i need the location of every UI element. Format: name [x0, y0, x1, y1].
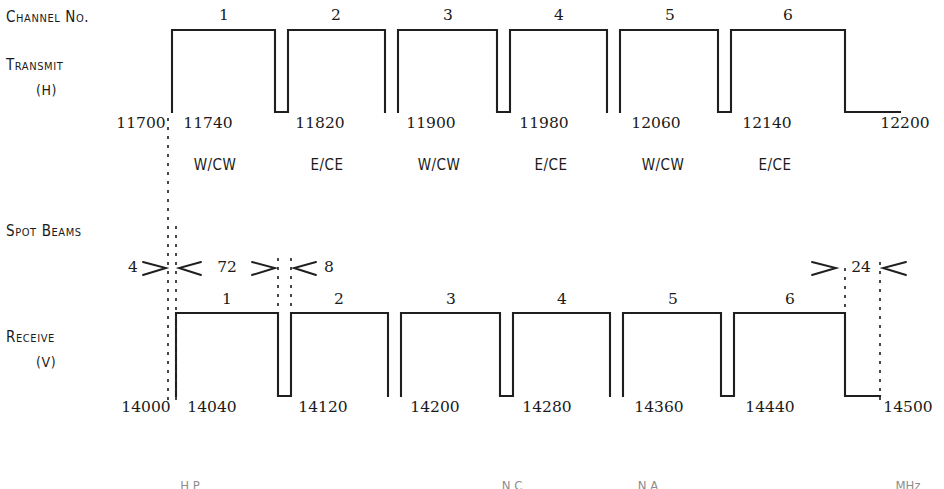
polarization-label-1: W/CW — [194, 156, 237, 174]
footnote-fragment-3: N A — [638, 478, 658, 489]
polarization-label-4: E/CE — [534, 156, 567, 174]
arrow-left-24 — [883, 262, 906, 275]
transmit-freq-12060: 12060 — [631, 114, 680, 132]
guard-band-value-24: 24 — [851, 258, 871, 276]
polarization-label-5: W/CW — [642, 156, 685, 174]
transmit-freq-11700: 11700 — [116, 114, 165, 132]
channel-no-row-label: Channel No. — [6, 8, 89, 26]
footnote-fragment-4: MHz — [895, 478, 920, 489]
arrow-right-72 — [252, 262, 275, 275]
transmit-channel-number-5: 5 — [665, 6, 675, 24]
arrow-right-24 — [812, 262, 836, 275]
receive-freq-14440: 14440 — [745, 398, 794, 416]
spot-beam-arrows — [143, 262, 906, 275]
receive-channel-number-3: 3 — [446, 290, 456, 308]
arrow-left-8 — [294, 262, 316, 275]
guard-band-value-72: 72 — [217, 258, 237, 276]
transmit-freq-11980: 11980 — [519, 114, 568, 132]
polarization-label-2: E/CE — [310, 156, 343, 174]
polarization-label-6: E/CE — [758, 156, 791, 174]
receive-freq-14040: 14040 — [187, 398, 236, 416]
transmit-channel-number-6: 6 — [783, 6, 793, 24]
transmit-row-label: Transmit — [6, 56, 63, 74]
receive-freq-14000: 14000 — [121, 398, 170, 416]
guard-band-value-8: 8 — [324, 258, 334, 276]
transmit-waveform — [172, 30, 900, 112]
transmit-freq-12140: 12140 — [742, 114, 791, 132]
arrow-right-4 — [143, 262, 166, 275]
receive-channel-number-5: 5 — [668, 290, 678, 308]
receive-freq-14200: 14200 — [410, 398, 459, 416]
transmit-row-sublabel: (H) — [36, 82, 57, 98]
receive-channel-number-1: 1 — [222, 290, 232, 308]
spot-beams-row-label: Spot Beams — [6, 222, 82, 240]
receive-row-sublabel: (V) — [36, 354, 56, 370]
transmit-freq-12200: 12200 — [880, 114, 929, 132]
receive-row-label: Receive — [6, 328, 55, 346]
receive-freq-14280: 14280 — [522, 398, 571, 416]
transmit-channel-number-4: 4 — [554, 6, 564, 24]
arrow-left-72 — [179, 262, 201, 275]
receive-channel-number-6: 6 — [785, 290, 795, 308]
footnote-fragment-1: H P — [180, 478, 200, 489]
transmit-channel-number-3: 3 — [443, 6, 453, 24]
transmit-channel-number-1: 1 — [219, 6, 229, 24]
transmit-freq-11900: 11900 — [406, 114, 455, 132]
receive-freq-14360: 14360 — [634, 398, 683, 416]
transmit-freq-11820: 11820 — [295, 114, 344, 132]
transmit-channel-number-2: 2 — [331, 6, 341, 24]
receive-waveform — [176, 313, 880, 396]
receive-channel-number-4: 4 — [557, 290, 567, 308]
frequency-plan-diagram: Channel No. Transmit (H) Spot Beams Rece… — [0, 0, 944, 489]
receive-channel-number-2: 2 — [334, 290, 344, 308]
guard-band-value-4: 4 — [128, 258, 138, 276]
polarization-label-3: W/CW — [418, 156, 461, 174]
receive-freq-14120: 14120 — [298, 398, 347, 416]
transmit-freq-11740: 11740 — [183, 114, 232, 132]
footnote-fragment-2: N C — [502, 478, 523, 489]
receive-freq-14500: 14500 — [883, 398, 932, 416]
